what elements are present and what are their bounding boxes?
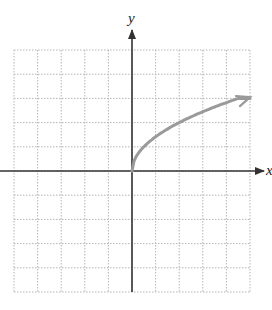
x-axis-label: x	[266, 162, 272, 179]
curve-line	[132, 98, 250, 171]
y-axis-label: y	[128, 10, 135, 27]
curve-layer	[132, 96, 250, 171]
axes	[0, 30, 264, 292]
graph-plot	[0, 0, 272, 310]
